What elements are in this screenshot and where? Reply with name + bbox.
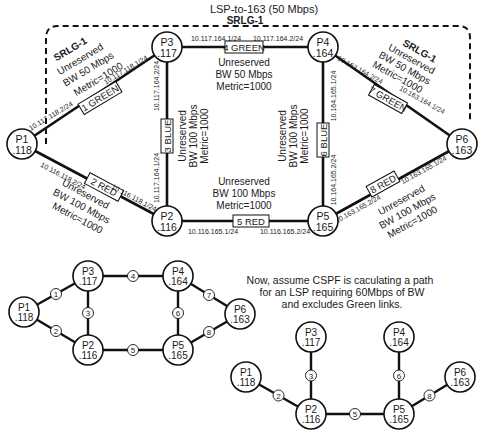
link-number: 3 bbox=[309, 372, 314, 381]
link-number-badge: 5 bbox=[128, 345, 139, 356]
all-links-graph-links: 12345678 bbox=[24, 271, 240, 356]
link-number-badge: 8 bbox=[424, 390, 435, 401]
router-address: .116 bbox=[79, 350, 98, 361]
router-address: .118 bbox=[237, 377, 256, 388]
metric-text: Metric=1000 bbox=[216, 81, 272, 92]
router-address: .116 bbox=[157, 221, 177, 233]
router-node-p1: P1.118 bbox=[231, 362, 261, 392]
ip-address: 10.117.164.1/24 bbox=[191, 35, 241, 42]
srlg-tag: SRLG-1 bbox=[227, 15, 264, 26]
bandwidth-text: Unreserved bbox=[218, 176, 270, 187]
link-number: 8 bbox=[207, 328, 212, 337]
router-address: .164 bbox=[389, 337, 409, 348]
diagram-canvas: LSP-to-163 (50 Mbps) 1 GREEN10.117.118.2… bbox=[0, 0, 488, 441]
link-number-badge: 6 bbox=[394, 370, 405, 381]
network-diagram-figure: LSP-to-163 (50 Mbps) 1 GREEN10.117.118.2… bbox=[0, 0, 488, 441]
router-address: .163 bbox=[230, 314, 250, 325]
bandwidth-text: Unreserved bbox=[177, 110, 188, 162]
note-line-1: Now, assume CSPF is caculating a path bbox=[247, 274, 434, 286]
ip-address: 10.117.164.2/24 bbox=[253, 35, 303, 42]
router-node-p3: P3.117 bbox=[73, 261, 103, 291]
router-address: .117 bbox=[79, 276, 98, 287]
top-links: 1 GREEN10.117.118.2/2410.117.118.1/24SRL… bbox=[22, 15, 462, 240]
bandwidth-text: Unreserved bbox=[218, 57, 270, 68]
router-address: .163 bbox=[452, 144, 473, 156]
pruned-graph-links: 23568 bbox=[246, 337, 460, 420]
router-node-p6: P6.163 bbox=[225, 299, 255, 329]
router-node-p3: P3.117 bbox=[296, 322, 326, 352]
router-node-p6: P6.163 bbox=[445, 362, 475, 392]
metric-text: Metric=1000 bbox=[299, 108, 310, 164]
cspf-note: Now, assume CSPF is caculating a path fo… bbox=[247, 274, 434, 310]
link-number: 5 bbox=[353, 410, 358, 419]
link-number: 1 bbox=[54, 290, 59, 299]
link-tag-text: 6 BLUE bbox=[318, 124, 329, 157]
router-address: .163 bbox=[450, 377, 470, 388]
link-number: 2 bbox=[54, 327, 59, 336]
link-number-badge: 2 bbox=[273, 390, 284, 401]
metric-text: Metric=1000 bbox=[199, 108, 210, 164]
bandwidth-text: BW 50 Mbps bbox=[215, 69, 272, 80]
ip-address: 10.163.165.1/24 bbox=[400, 154, 448, 185]
ip-address: 10.163.165.2/24 bbox=[334, 193, 382, 224]
ip-address: 10.116.165.1/24 bbox=[188, 228, 238, 235]
router-node-p5: P5.165 bbox=[308, 206, 338, 236]
link-color-tag: 6 BLUE bbox=[317, 123, 329, 157]
router-node-p4: P4.164 bbox=[163, 261, 193, 291]
link-color-tag: 5 RED bbox=[233, 215, 269, 227]
bandwidth-text: BW 100 Mbps bbox=[288, 105, 299, 168]
router-address: .117 bbox=[157, 47, 177, 59]
lsp-label: LSP-to-163 (50 Mbps) bbox=[210, 3, 318, 15]
link-number-badge: 7 bbox=[204, 290, 215, 301]
link-tag-text: 3 BLUE bbox=[162, 120, 173, 153]
note-line-3: and excludes Green links. bbox=[282, 298, 403, 310]
router-address: .117 bbox=[302, 337, 321, 348]
link-number: 5 bbox=[131, 346, 136, 355]
link-number-badge: 2 bbox=[51, 326, 62, 337]
link-color-tag: 4 GREEN bbox=[223, 41, 265, 53]
link-tag-text: 4 GREEN bbox=[223, 42, 265, 53]
link-number-badge: 4 bbox=[128, 271, 139, 282]
link-number: 4 bbox=[131, 272, 136, 281]
link-number-badge: 3 bbox=[306, 370, 317, 381]
link-number-badge: 8 bbox=[204, 327, 215, 338]
ip-address: 10.116.165.2/24 bbox=[260, 228, 310, 235]
link-number-badge: 1 bbox=[51, 289, 62, 300]
ip-address: 10.117.164.2/24 bbox=[153, 61, 160, 111]
link-number: 8 bbox=[427, 392, 432, 401]
router-node-p1: P1.118 bbox=[9, 297, 39, 327]
router-address: .165 bbox=[389, 414, 409, 425]
link-number-badge: 5 bbox=[350, 409, 361, 420]
link-tag-text: 5 RED bbox=[237, 216, 265, 227]
link-number: 6 bbox=[176, 309, 181, 318]
ip-address: 10.117.118.2/24 bbox=[28, 100, 74, 132]
router-node-p5: P5.165 bbox=[384, 399, 414, 429]
bandwidth-text: BW 100 Mbps bbox=[213, 188, 276, 199]
ip-address: 10.117.164.1/24 bbox=[153, 153, 160, 203]
ip-address: 10.164.165.1/24 bbox=[330, 71, 337, 122]
metric-text: Metric=1000 bbox=[216, 200, 272, 211]
link-number: 2 bbox=[276, 392, 281, 401]
link-number-badge: 6 bbox=[173, 308, 184, 319]
bandwidth-text: BW 100 Mbps bbox=[188, 105, 199, 168]
link-color-tag: 3 BLUE bbox=[161, 119, 173, 153]
router-address: .165 bbox=[313, 221, 334, 233]
note-line-2: for an LSP requiring 60Mbps of BW bbox=[260, 286, 425, 298]
bandwidth-text: Unreserved bbox=[277, 110, 288, 162]
router-node-p2: P2.116 bbox=[152, 206, 182, 236]
router-node-p3: P3.117 bbox=[152, 32, 182, 62]
router-node-p4: P4.164 bbox=[308, 32, 338, 62]
router-address: .165 bbox=[168, 350, 188, 361]
link-number: 7 bbox=[207, 291, 212, 300]
router-node-p4: P4.164 bbox=[384, 322, 414, 352]
link-tag-text: 8 RED bbox=[368, 172, 398, 195]
router-node-p2: P2.116 bbox=[296, 399, 326, 429]
router-node-p2: P2.116 bbox=[73, 335, 103, 365]
router-address: .164 bbox=[168, 276, 188, 287]
ip-address: 10.164.165.2/24 bbox=[330, 155, 337, 206]
router-address: .118 bbox=[15, 312, 34, 323]
router-address: .164 bbox=[313, 47, 334, 59]
router-node-p5: P5.165 bbox=[163, 335, 193, 365]
router-node-p1: P1.118 bbox=[7, 129, 37, 159]
router-address: .116 bbox=[302, 414, 321, 425]
